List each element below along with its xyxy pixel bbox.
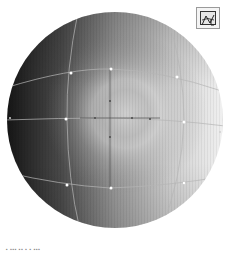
anchor-point — [70, 72, 73, 75]
anchor-point — [66, 184, 69, 187]
anchor-point — [9, 117, 11, 119]
handle-point — [131, 117, 133, 119]
mesh-tool-icon — [200, 11, 216, 25]
handle-point — [94, 117, 96, 119]
anchor-point — [183, 182, 185, 184]
anchor-point — [176, 76, 179, 79]
anchor-point — [183, 121, 186, 124]
anchor-point — [219, 131, 221, 133]
mesh-tool-button[interactable] — [196, 7, 220, 29]
anchor-point — [110, 68, 113, 71]
handle-point — [109, 136, 111, 138]
anchor-point — [65, 118, 68, 121]
handle-point — [109, 100, 111, 102]
mesh-canvas[interactable] — [0, 0, 230, 258]
sphere[interactable] — [7, 12, 223, 228]
status-caption: ▪ ▪▪▪ ▪▪ ▪ ▪ ▪▪▪ — [6, 246, 40, 252]
handle-point — [149, 118, 151, 120]
anchor-point — [110, 187, 113, 190]
